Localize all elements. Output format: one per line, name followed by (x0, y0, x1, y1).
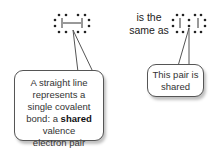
left-callout-pointer (73, 30, 93, 72)
connector-line-1: is the (116, 11, 182, 24)
comparison-text: is the same as (116, 11, 182, 37)
callout-left-line: represents a (15, 89, 103, 101)
callout-right-line: shared (148, 81, 203, 93)
shared-pair-callout: This pair is shared (147, 64, 204, 97)
callout-left-line: electron pair (15, 137, 103, 149)
callout-left-prefix: bond: a (26, 113, 60, 124)
callout-left-line: valence (15, 125, 103, 137)
connector-line-2: same as (116, 24, 182, 37)
left-lewis-structure (54, 14, 91, 34)
single-bond-callout: A straight line represents a single cova… (14, 70, 104, 141)
callout-left-line: A straight line (15, 77, 103, 89)
callout-right-line: This pair is (148, 69, 203, 81)
callout-left-bold: shared (61, 113, 92, 124)
callout-left-line: single covalent (15, 101, 103, 113)
callout-left-line: bond: a shared (15, 113, 103, 125)
